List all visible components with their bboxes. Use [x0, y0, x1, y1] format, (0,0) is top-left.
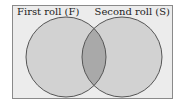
set-f-label: First roll (F)	[17, 7, 79, 17]
set-s-label: Second roll (S)	[95, 7, 170, 17]
